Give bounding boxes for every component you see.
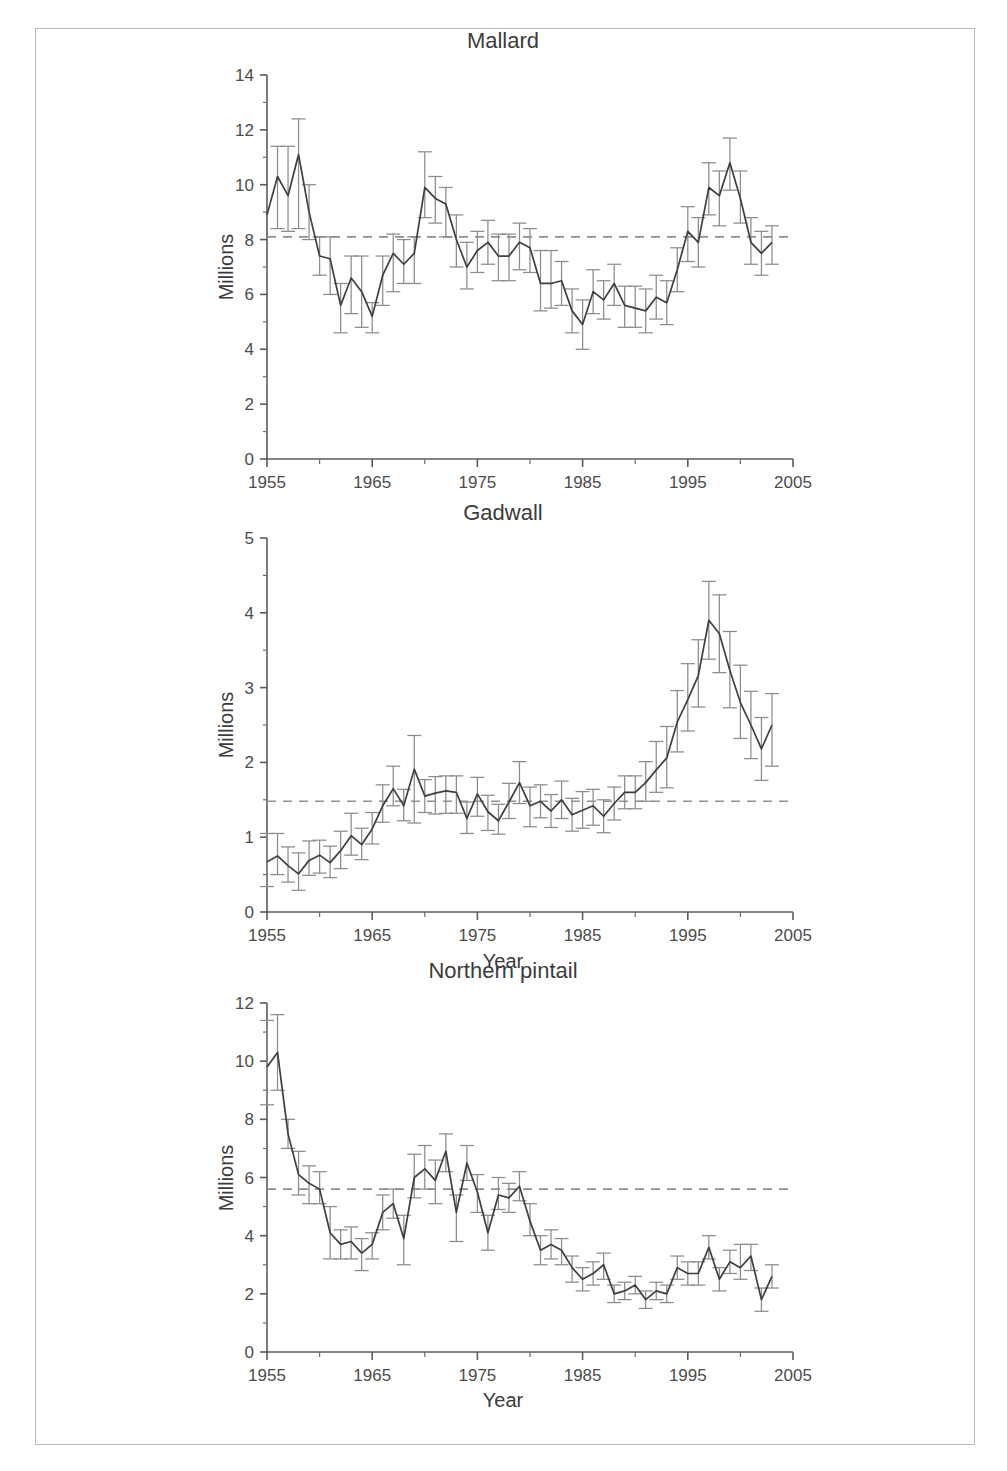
y-tick-label-gadwall-0: 0 [245, 903, 254, 922]
chart-title-mallard: Mallard [467, 28, 539, 53]
chart-panel-mallard: Mallard024681012141955196519751985199520… [0, 0, 1007, 500]
y-tick-label-pintail-0: 0 [245, 1343, 254, 1362]
y-axis-title-gadwall: Millions [215, 692, 237, 759]
figure-page: Mallard024681012141955196519751985199520… [0, 0, 1007, 1471]
x-tick-label-mallard-2: 1975 [458, 473, 496, 492]
y-tick-label-pintail-4: 8 [245, 1110, 254, 1129]
x-tick-label-mallard-3: 1985 [564, 473, 602, 492]
y-tick-label-pintail-3: 6 [245, 1169, 254, 1188]
x-tick-label-gadwall-4: 1995 [669, 926, 707, 945]
x-tick-label-mallard-4: 1995 [669, 473, 707, 492]
y-tick-label-mallard-3: 6 [245, 285, 254, 304]
x-tick-label-mallard-0: 1955 [248, 473, 286, 492]
y-tick-label-pintail-1: 2 [245, 1285, 254, 1304]
x-tick-label-mallard-5: 2005 [774, 473, 812, 492]
y-tick-label-mallard-1: 2 [245, 395, 254, 414]
pintail-chart-svg: Northern pintail024681012195519651975198… [0, 950, 1007, 1420]
x-tick-label-pintail-3: 1985 [564, 1366, 602, 1385]
y-tick-label-mallard-2: 4 [245, 340, 254, 359]
series-line-gadwall [267, 620, 772, 874]
y-axis-title-pintail: Millions [215, 1145, 237, 1212]
x-tick-label-pintail-0: 1955 [248, 1366, 286, 1385]
x-tick-label-pintail-2: 1975 [458, 1366, 496, 1385]
mallard-chart-svg: Mallard024681012141955196519751985199520… [0, 0, 1007, 500]
y-tick-label-gadwall-2: 2 [245, 753, 254, 772]
errorbar-group-mallard [271, 119, 779, 349]
x-tick-label-gadwall-0: 1955 [248, 926, 286, 945]
chart-title-gadwall: Gadwall [463, 500, 542, 525]
chart-title-pintail: Northern pintail [428, 958, 577, 983]
y-tick-label-gadwall-4: 4 [245, 604, 254, 623]
y-tick-label-pintail-6: 12 [235, 994, 254, 1013]
y-tick-label-mallard-7: 14 [235, 66, 254, 85]
y-tick-label-mallard-0: 0 [245, 450, 254, 469]
x-tick-label-pintail-5: 2005 [774, 1366, 812, 1385]
x-tick-label-gadwall-1: 1965 [353, 926, 391, 945]
gadwall-chart-svg: Gadwall012345195519651975198519952005Mil… [0, 495, 1007, 970]
x-tick-label-pintail-1: 1965 [353, 1366, 391, 1385]
y-tick-label-mallard-5: 10 [235, 176, 254, 195]
errorbar-group-gadwall [260, 581, 779, 890]
y-tick-label-gadwall-1: 1 [245, 828, 254, 847]
y-tick-label-gadwall-3: 3 [245, 679, 254, 698]
y-tick-label-gadwall-5: 5 [245, 529, 254, 548]
x-tick-label-gadwall-2: 1975 [458, 926, 496, 945]
x-axis-title-pintail: Year [483, 1389, 524, 1411]
y-tick-label-mallard-4: 8 [245, 231, 254, 250]
chart-panel-pintail: Northern pintail024681012195519651975198… [0, 950, 1007, 1420]
chart-panel-gadwall: Gadwall012345195519651975198519952005Mil… [0, 495, 1007, 970]
y-tick-label-pintail-5: 10 [235, 1052, 254, 1071]
x-tick-label-gadwall-3: 1985 [564, 926, 602, 945]
y-axis-title-mallard: Millions [215, 234, 237, 301]
y-tick-label-pintail-2: 4 [245, 1227, 254, 1246]
x-tick-label-gadwall-5: 2005 [774, 926, 812, 945]
x-tick-label-mallard-1: 1965 [353, 473, 391, 492]
x-tick-label-pintail-4: 1995 [669, 1366, 707, 1385]
y-tick-label-mallard-6: 12 [235, 121, 254, 140]
